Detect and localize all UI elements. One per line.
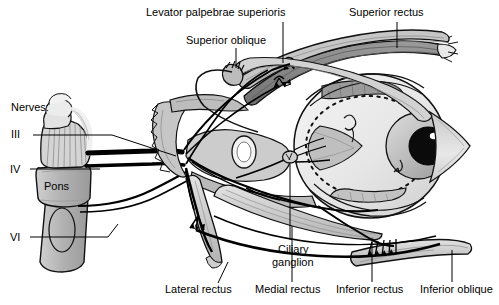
label-medial-rectus: Medial rectus — [255, 283, 320, 296]
label-inferior-oblique: Inferior oblique — [420, 283, 493, 296]
label-superior-rectus: Superior rectus — [349, 6, 424, 19]
inferior-oblique-muscle — [351, 239, 472, 266]
label-ciliary-ganglion-line1: Ciliary — [278, 243, 309, 256]
label-nerve-vi: VI — [10, 231, 20, 244]
label-nerve-iv: IV — [10, 163, 20, 176]
label-lateral-rectus: Lateral rectus — [165, 283, 232, 296]
label-nerve-iii: III — [11, 128, 20, 141]
label-levator-palpebrae: Levator palpebrae superioris — [146, 6, 285, 19]
label-nerves-heading: Nerves: — [11, 101, 49, 114]
label-ciliary-ganglion-line2: ganglion — [272, 256, 314, 269]
eyeball-globe — [294, 74, 470, 218]
label-pons: Pons — [44, 180, 69, 193]
label-inferior-rectus: Inferior rectus — [336, 283, 403, 296]
ciliary-ganglion — [283, 151, 298, 163]
label-superior-oblique: Superior oblique — [186, 34, 266, 47]
anatomy-figure: Levator palpebrae superioris Superior ob… — [0, 0, 499, 305]
